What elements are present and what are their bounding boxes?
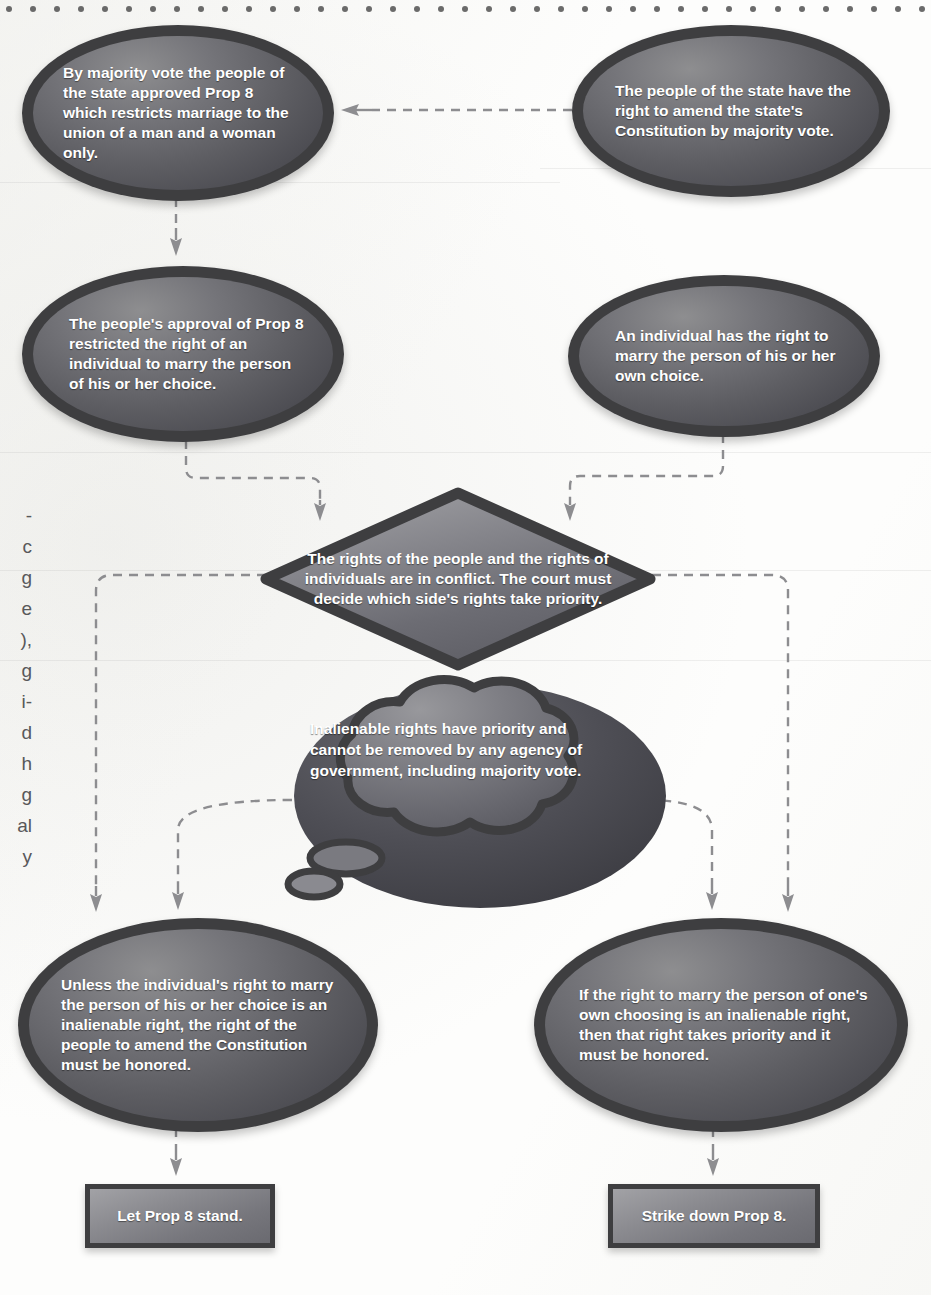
node-majority-vote-approved-prop8[interactable]: By majority vote the people of the state… <box>22 25 334 201</box>
node-text: The people of the state have the right t… <box>583 81 879 141</box>
edge-if-to-strike-down-prop8 <box>707 1128 719 1176</box>
ellipse-inner: An individual has the right to marry the… <box>579 286 869 426</box>
node-if-inalienable-right-takes-priority[interactable]: If the right to marry the person of one'… <box>534 918 908 1132</box>
scanned-page: - c g e ), g i- d h g al y <box>0 0 931 1295</box>
node-outcome-let-prop8-stand[interactable]: Let Prop 8 stand. <box>85 1184 275 1248</box>
edge-conflict-to-if-inalienable <box>652 575 794 912</box>
node-text: Let Prop 8 stand. <box>90 1189 270 1243</box>
ellipse-inner: By majority vote the people of the state… <box>33 36 323 190</box>
node-text: By majority vote the people of the state… <box>33 63 323 163</box>
thought-cloud-shape <box>268 660 668 910</box>
ellipse-inner: Unless the individual's right to marry t… <box>29 929 367 1121</box>
edge-prop8-approved-to-approval-restricted <box>170 198 182 256</box>
ellipse-inner: The people of the state have the right t… <box>583 36 879 186</box>
node-text: Strike down Prop 8. <box>613 1189 815 1243</box>
edge-people-amend-to-prop8-approved <box>341 104 572 116</box>
node-text: Unless the individual's right to marry t… <box>29 975 367 1075</box>
node-rights-in-conflict-decision[interactable]: The rights of the people and the rights … <box>258 487 658 671</box>
edge-conflict-to-unless-inalienable <box>90 575 266 912</box>
node-unless-inalienable-honor-amendment[interactable]: Unless the individual's right to marry t… <box>18 918 378 1132</box>
node-text: The rights of the people and the rights … <box>258 487 658 671</box>
node-individual-right-to-marry[interactable]: An individual has the right to marry the… <box>568 275 880 437</box>
ellipse-inner: If the right to marry the person of one'… <box>545 929 897 1121</box>
node-outcome-strike-down-prop8[interactable]: Strike down Prop 8. <box>608 1184 820 1248</box>
node-text: The people's approval of Prop 8 restrict… <box>33 314 333 394</box>
ellipse-inner: The people's approval of Prop 8 restrict… <box>33 277 333 431</box>
node-inalienable-rights-priority[interactable]: Inalienable rights have priority and can… <box>268 660 668 910</box>
node-text: An individual has the right to marry the… <box>579 326 869 386</box>
node-text: Inalienable rights have priority and can… <box>310 718 604 781</box>
node-approval-restricted-right[interactable]: The people's approval of Prop 8 restrict… <box>22 266 344 442</box>
node-text: If the right to marry the person of one'… <box>545 985 897 1065</box>
edge-unless-to-let-prop8-stand <box>170 1128 182 1176</box>
node-people-right-to-amend[interactable]: The people of the state have the right t… <box>572 25 890 197</box>
